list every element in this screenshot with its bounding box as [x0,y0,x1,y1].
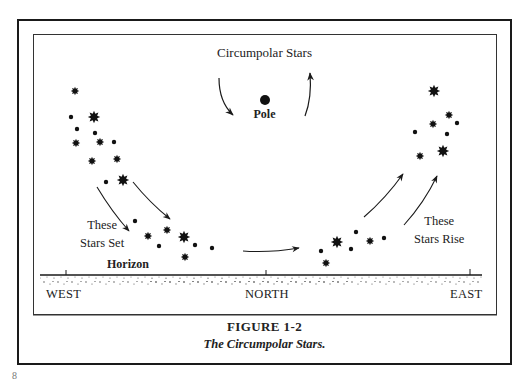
horizon-label: Horizon [107,257,149,272]
stars-set-line-2: Stars Set [80,234,124,252]
star-icon [428,85,440,97]
star-icon [322,259,330,267]
stars-set-line-1: These [80,216,124,234]
pole-dot [260,95,270,105]
star-icon [144,232,152,240]
star-icon [163,226,171,234]
stars-rise-line-1: These [414,212,464,230]
figure-number: FIGURE 1-2 [0,319,529,335]
star-icon [104,180,108,184]
pole-label: Pole [0,107,529,122]
star-icon [112,140,116,144]
star-icon [319,249,323,253]
page-number: 8 [12,370,17,381]
star-icon [178,231,190,243]
north-arrow [243,248,299,252]
star-icon [72,139,80,147]
circumpolar-heading: Circumpolar Stars [0,45,529,61]
star-icon [93,131,97,135]
north-label: NORTH [245,287,289,302]
star-icon [181,253,189,261]
star-icon [96,138,104,146]
star-icon [331,236,343,248]
star-icon [193,243,197,247]
star-icon [349,247,353,251]
star-icon [117,174,129,186]
star-icon [133,219,137,223]
star-icon [113,155,121,163]
stars-rise-line-2: Stars Rise [414,230,464,248]
star-icon [354,230,358,234]
star-icon [88,157,96,165]
star-icon [366,237,374,245]
stars-set-label: These Stars Set [80,216,124,252]
stars-rise-label: These Stars Rise [414,212,464,248]
star-icon [71,87,79,95]
figure-title: The Circumpolar Stars. [0,337,529,352]
star-icon [416,152,424,160]
star-icon [75,127,79,131]
star-icon [210,246,214,250]
west-label: WEST [46,287,81,302]
star-icon [445,132,449,136]
star-icon [437,145,449,157]
east-label: EAST [450,287,482,302]
star-icon [382,236,386,240]
star-icon [413,130,417,134]
star-icon [157,244,161,248]
